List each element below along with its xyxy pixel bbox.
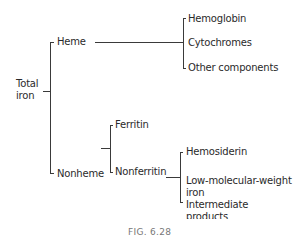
connector-total-iron [43, 91, 50, 92]
node-intermediate-products-line1: Intermediate [186, 199, 248, 211]
node-heme: Heme [57, 36, 86, 48]
clip-products: products [186, 211, 266, 219]
bracket-heme-vertical [183, 18, 184, 69]
bracket-nonferritin-top-tick [180, 152, 183, 153]
bracket-nonheme-top-tick [110, 125, 113, 126]
bracket-heme-bottom-tick [183, 68, 186, 69]
node-total-iron-line2: iron [16, 90, 34, 102]
node-ferritin: Ferritin [115, 119, 149, 131]
connector-heme [95, 42, 183, 43]
bracket-root-top-tick [50, 42, 54, 43]
node-nonheme: Nonheme [57, 168, 104, 180]
connector-nonheme [101, 148, 110, 149]
bracket-nonheme-vertical [110, 125, 111, 173]
node-nonferritin: Nonferritin [115, 166, 166, 178]
node-hemosiderin: Hemosiderin [186, 146, 247, 158]
node-low-molecular-weight-iron-line1: Low-molecular-weight [186, 175, 292, 187]
bracket-root-vertical [50, 42, 51, 174]
connector-nonferritin [166, 177, 180, 178]
bracket-nonheme-bottom-tick [110, 172, 113, 173]
bracket-heme-top-tick [183, 18, 186, 19]
node-other-components: Other components [188, 62, 278, 74]
node-intermediate-products-line2: products [186, 211, 228, 219]
node-low-molecular-weight-iron-line2: iron [186, 187, 204, 199]
node-total-iron-line1: Total [16, 78, 38, 90]
bracket-root-bottom-tick [50, 173, 54, 174]
node-cytochromes: Cytochromes [188, 37, 252, 49]
bracket-nonferritin-bottom-tick [180, 202, 183, 203]
bracket-nonferritin-vertical [180, 152, 181, 203]
node-hemoglobin: Hemoglobin [188, 13, 246, 25]
figure-caption: FIG. 6.28 [128, 227, 171, 237]
